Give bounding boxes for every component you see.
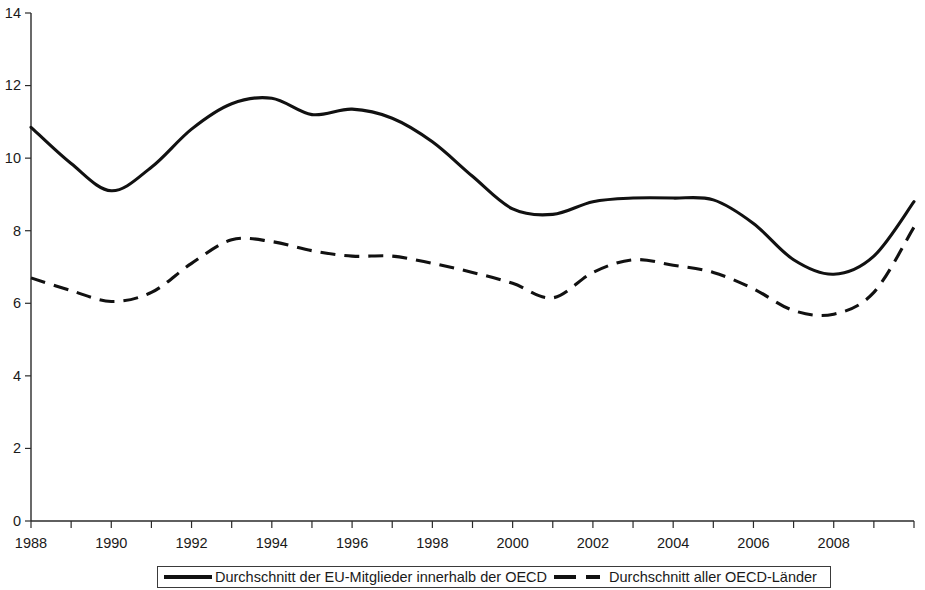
series-line-eu-average — [31, 98, 914, 275]
x-tick-label: 2002 — [577, 535, 609, 551]
y-tick-label: 8 — [13, 223, 21, 239]
legend-dashed-line-icon — [554, 575, 606, 579]
y-tick-marks — [25, 13, 31, 521]
legend-solid-line-icon — [164, 575, 212, 579]
y-tick-label: 14 — [5, 5, 21, 21]
y-axis-tick-labels: 02468101214 — [5, 5, 21, 529]
chart-container: 02468101214 1988199019921994199619982000… — [0, 0, 925, 590]
y-tick-label: 6 — [13, 295, 21, 311]
x-tick-label: 2004 — [657, 535, 689, 551]
legend-entry-oecd-average: Durchschnitt aller OECD-Länder — [554, 567, 824, 587]
series-line-oecd-average — [31, 227, 914, 315]
x-tick-label: 2008 — [818, 535, 850, 551]
y-tick-label: 2 — [13, 440, 21, 456]
x-axis-group — [31, 521, 914, 528]
x-tick-label: 2006 — [737, 535, 769, 551]
x-axis-tick-labels: 1988199019921994199619982000200220042006… — [15, 535, 850, 551]
x-tick-label: 2000 — [497, 535, 529, 551]
data-series-layer — [31, 98, 914, 316]
line-chart-svg: 02468101214 1988199019921994199619982000… — [0, 0, 925, 590]
x-tick-label: 1990 — [95, 535, 127, 551]
y-axis-group — [25, 13, 31, 521]
chart-legend: Durchschnitt der EU-Mitglieder innerhalb… — [157, 566, 831, 588]
x-tick-marks — [31, 521, 914, 528]
y-tick-label: 10 — [5, 150, 21, 166]
x-tick-label: 1996 — [336, 535, 368, 551]
x-tick-label: 1992 — [175, 535, 207, 551]
legend-label-eu-average: Durchschnitt der EU-Mitglieder innerhalb… — [214, 570, 554, 585]
y-tick-label: 12 — [5, 77, 21, 93]
legend-entry-eu-average: Durchschnitt der EU-Mitglieder innerhalb… — [164, 567, 554, 587]
y-tick-label: 0 — [13, 513, 21, 529]
y-tick-label: 4 — [13, 368, 21, 384]
x-tick-label: 1994 — [256, 535, 288, 551]
legend-label-oecd-average: Durchschnitt aller OECD-Länder — [608, 570, 824, 585]
x-tick-label: 1998 — [416, 535, 448, 551]
x-tick-label: 1988 — [15, 535, 47, 551]
